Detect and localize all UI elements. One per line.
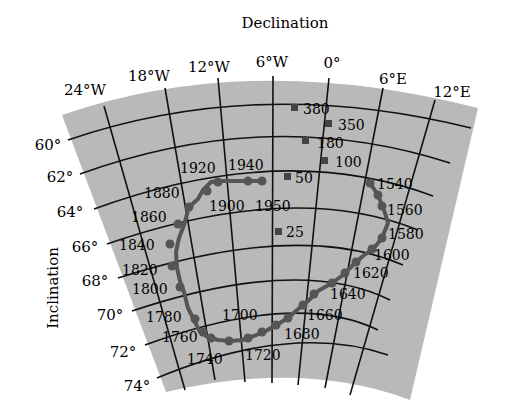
path-dot bbox=[185, 203, 194, 212]
path-label: 1920 bbox=[180, 160, 216, 176]
y-tick-label: 66° bbox=[72, 238, 99, 256]
path-label: 1880 bbox=[144, 185, 180, 201]
path-dot bbox=[225, 337, 234, 346]
y-axis-label: Inclination bbox=[44, 247, 62, 329]
path-dot bbox=[191, 315, 200, 324]
chart-canvas: Declination 24°W 18°W 12°W 6°W 0° 6°E 12… bbox=[0, 0, 515, 419]
path-dot bbox=[168, 262, 177, 271]
square-marker bbox=[302, 137, 309, 144]
marker-label: 180 bbox=[317, 135, 344, 151]
x-tick-label: 12°E bbox=[433, 83, 471, 101]
path-label: 1700 bbox=[222, 307, 258, 323]
marker-label: 50 bbox=[295, 170, 313, 186]
path-label: 1840 bbox=[119, 237, 155, 253]
path-label: 1950 bbox=[255, 198, 291, 214]
path-label: 1720 bbox=[245, 347, 281, 363]
marker-label: 25 bbox=[286, 224, 304, 240]
x-tick-label: 18°W bbox=[128, 67, 171, 85]
path-dot bbox=[378, 234, 387, 243]
path-dot bbox=[244, 334, 253, 343]
x-tick-label: 0° bbox=[323, 54, 340, 72]
x-tick-label: 12°W bbox=[188, 58, 231, 76]
path-label: 1940 bbox=[228, 157, 264, 173]
y-tick-label: 60° bbox=[35, 136, 62, 154]
path-label: 1640 bbox=[330, 286, 366, 302]
x-tick-label: 24°W bbox=[64, 81, 107, 99]
path-label: 1860 bbox=[131, 209, 167, 225]
path-label: 1600 bbox=[374, 247, 410, 263]
marker-label: 350 bbox=[338, 117, 365, 133]
path-label: 1660 bbox=[307, 307, 343, 323]
path-dot bbox=[272, 321, 281, 330]
x-tick-label: 6°W bbox=[256, 53, 289, 71]
path-label: 1540 bbox=[377, 176, 413, 192]
path-dot bbox=[176, 283, 185, 292]
path-label: 1620 bbox=[353, 265, 389, 281]
square-marker bbox=[284, 173, 291, 180]
y-tick-label: 72° bbox=[110, 343, 137, 361]
path-dot bbox=[258, 328, 267, 337]
path-dot bbox=[214, 178, 223, 187]
path-dot bbox=[203, 187, 212, 196]
square-marker bbox=[291, 104, 298, 111]
path-dot bbox=[284, 314, 293, 323]
square-marker bbox=[321, 157, 328, 164]
path-label: 1760 bbox=[162, 329, 198, 345]
y-tick-label: 68° bbox=[82, 272, 109, 290]
square-marker bbox=[325, 120, 332, 127]
y-tick-label: 62° bbox=[47, 168, 74, 186]
path-label: 1580 bbox=[388, 226, 424, 242]
path-dot bbox=[341, 269, 350, 278]
path-dot bbox=[166, 240, 175, 249]
path-label: 1800 bbox=[132, 281, 168, 297]
path-dot bbox=[258, 177, 267, 186]
marker-label: 100 bbox=[335, 154, 362, 170]
path-label: 1680 bbox=[284, 326, 320, 342]
path-dot bbox=[310, 290, 319, 299]
path-dot bbox=[199, 328, 208, 337]
path-dot bbox=[174, 220, 183, 229]
y-tick-label: 64° bbox=[57, 203, 84, 221]
path-dot bbox=[207, 334, 216, 343]
marker-label: 380 bbox=[303, 101, 330, 117]
path-label: 1780 bbox=[146, 309, 182, 325]
path-label: 1740 bbox=[187, 351, 223, 367]
path-label: 1560 bbox=[387, 202, 423, 218]
chart-title: Declination bbox=[241, 14, 328, 32]
path-label: 1820 bbox=[122, 262, 158, 278]
y-tick-label: 70° bbox=[97, 306, 124, 324]
x-tick-label: 6°E bbox=[379, 70, 407, 88]
path-dot bbox=[378, 202, 387, 211]
path-dot bbox=[244, 177, 253, 186]
square-marker bbox=[275, 228, 282, 235]
path-label: 1900 bbox=[209, 198, 245, 214]
y-tick-label: 74° bbox=[124, 377, 151, 395]
path-dot bbox=[366, 179, 375, 188]
